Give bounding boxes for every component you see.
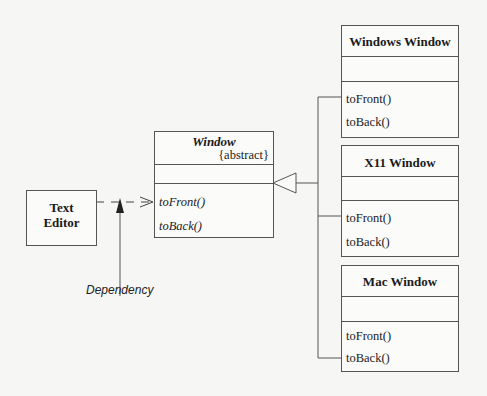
class-name: X11 Window (342, 155, 458, 171)
class-name-compartment: Windows Window (342, 26, 458, 56)
operation: toBack() (346, 115, 390, 130)
class-name-line2: Editor (27, 215, 96, 230)
class-name-compartment: X11 Window (342, 146, 458, 176)
dependency-label: Dependency (86, 283, 153, 297)
operation: toFront() (346, 211, 391, 226)
operation: toBack() (346, 235, 390, 250)
class-name-compartment: Window {abstract} (155, 132, 273, 164)
class-text-editor[interactable]: Text Editor (26, 190, 97, 246)
attributes-compartment (342, 56, 458, 81)
class-x11-window[interactable]: X11 Window toFront() toBack() (341, 145, 459, 257)
operation: toBack() (159, 219, 202, 234)
class-name: Text Editor (27, 200, 96, 230)
class-name-line1: Text (27, 200, 96, 215)
operation: toFront() (346, 92, 391, 107)
operations-compartment: toFront() toBack() (342, 321, 458, 371)
operations-compartment: toFront() toBack() (342, 81, 458, 137)
operation: toBack() (346, 351, 390, 366)
class-mac-window[interactable]: Mac Window toFront() toBack() (341, 265, 459, 372)
attributes-compartment (342, 176, 458, 200)
class-name: Windows Window (342, 34, 458, 50)
class-name-compartment: Mac Window (342, 266, 458, 296)
attributes-compartment (155, 164, 273, 183)
operation: toFront() (346, 329, 391, 344)
attributes-compartment (342, 296, 458, 321)
class-windows-window[interactable]: Windows Window toFront() toBack() (341, 25, 459, 138)
operations-compartment: toFront() toBack() (155, 183, 273, 237)
operation: toFront() (159, 195, 205, 210)
abstract-stereotype: {abstract} (218, 148, 269, 163)
annotation-pointer-arrowhead-icon (116, 198, 124, 213)
generalization-triangle-icon (273, 173, 296, 193)
class-window[interactable]: Window {abstract} toFront() toBack() (154, 131, 274, 238)
class-name: Mac Window (342, 274, 458, 290)
operations-compartment: toFront() toBack() (342, 200, 458, 256)
